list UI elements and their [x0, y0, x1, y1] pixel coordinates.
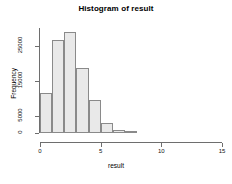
x-axis-tick-label: 0 — [30, 148, 50, 154]
x-axis-tick — [222, 143, 223, 147]
y-axis-line — [39, 28, 40, 133]
x-axis-line — [40, 142, 222, 143]
y-axis-tick-label: 5000 — [17, 102, 23, 128]
histogram-bar — [40, 93, 52, 133]
histogram-bar — [101, 123, 113, 134]
histogram-bar — [89, 100, 101, 133]
x-axis-tick-label: 5 — [91, 148, 111, 154]
x-axis-tick — [101, 143, 102, 147]
histogram-bar — [76, 68, 88, 133]
x-axis-tick — [161, 143, 162, 147]
histogram-bar — [113, 130, 125, 133]
y-axis-tick-label: 15000 — [17, 67, 23, 93]
histogram-bar — [125, 131, 137, 133]
x-axis-tick-label: 15 — [212, 148, 232, 154]
histogram-bar — [52, 40, 64, 133]
y-axis-title: Frequency — [10, 68, 17, 99]
histogram-bar — [64, 32, 76, 134]
y-axis-tick — [35, 116, 39, 117]
histogram-figure: Histogram of result 050001500025000 0510… — [0, 0, 232, 184]
x-axis-tick — [40, 143, 41, 147]
y-axis-tick — [35, 133, 39, 134]
plot-area — [40, 28, 222, 133]
y-axis-tick — [35, 46, 39, 47]
chart-title: Histogram of result — [0, 4, 232, 13]
y-axis-tick-label: 25000 — [17, 32, 23, 58]
x-axis-title: result — [0, 162, 232, 169]
x-axis-tick-label: 10 — [151, 148, 171, 154]
y-axis-tick — [35, 81, 39, 82]
